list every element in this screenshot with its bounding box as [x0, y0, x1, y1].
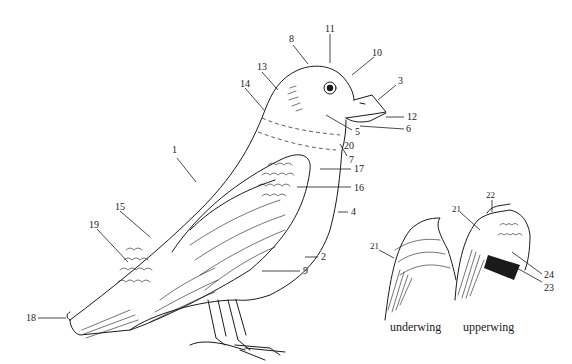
label-18: 18	[26, 313, 36, 323]
bird-topography-diagram: 1 2 3 4 5 6 7 8 9 10 11 12 13 14 15 16 1…	[0, 0, 572, 364]
label-13: 13	[257, 62, 267, 72]
label-3: 3	[398, 76, 403, 86]
label-12: 12	[407, 112, 417, 122]
upperwing-illustration	[455, 204, 530, 300]
label-5: 5	[355, 127, 360, 137]
underwing-illustration	[385, 218, 456, 320]
label-8: 8	[289, 34, 294, 44]
label-24: 24	[544, 270, 554, 280]
label-21-underwing: 21	[370, 241, 379, 251]
label-11: 11	[325, 24, 335, 34]
caption-underwing: underwing	[390, 320, 441, 335]
label-6: 6	[406, 124, 411, 134]
label-23: 23	[544, 283, 554, 293]
bird-illustration	[0, 0, 572, 364]
label-16: 16	[354, 183, 364, 193]
label-2: 2	[321, 252, 326, 262]
bird-body-outline	[67, 66, 386, 360]
label-20: 20	[344, 141, 354, 151]
caption-upperwing: upperwing	[463, 320, 514, 335]
label-19: 19	[89, 220, 99, 230]
leader-lines	[38, 34, 542, 318]
label-17: 17	[354, 164, 364, 174]
label-21-upperwing: 21	[452, 204, 461, 214]
label-15: 15	[115, 202, 125, 212]
label-22: 22	[486, 190, 495, 200]
label-14: 14	[240, 79, 250, 89]
label-9: 9	[303, 266, 308, 276]
label-1: 1	[172, 145, 177, 155]
label-4: 4	[351, 207, 356, 217]
label-10: 10	[372, 48, 382, 58]
